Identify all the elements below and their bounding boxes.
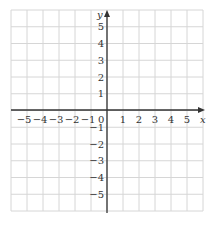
tick-label: 5 (98, 21, 104, 32)
y-axis-arrow-icon (104, 10, 110, 17)
tick-label: −5 (17, 114, 32, 125)
origin-label: 0 (98, 114, 104, 125)
tick-label: −2 (65, 114, 80, 125)
tick-label: −2 (89, 139, 104, 150)
tick-label: 3 (98, 55, 104, 66)
tick-label: 2 (98, 72, 104, 83)
tick-label: −3 (89, 155, 104, 166)
x-axis-label: x (200, 114, 206, 125)
tick-label: 4 (98, 38, 104, 49)
tick-label: 5 (184, 114, 190, 125)
tick-label: −4 (33, 114, 48, 125)
tick-label: 1 (98, 88, 104, 99)
tick-label: 4 (168, 114, 174, 125)
tick-label: 2 (136, 114, 142, 125)
tick-label: −3 (49, 114, 64, 125)
x-axis-arrow-icon (198, 107, 205, 113)
coordinate-plane: −5−4−3−2−11234512345−1−2−3−4−5 x y 0 (0, 0, 216, 227)
tick-label: −4 (89, 172, 104, 183)
tick-label: 3 (152, 114, 158, 125)
y-axis-label: y (96, 9, 103, 20)
tick-label: 1 (120, 114, 126, 125)
axes (11, 10, 205, 213)
tick-label: −5 (89, 189, 104, 200)
